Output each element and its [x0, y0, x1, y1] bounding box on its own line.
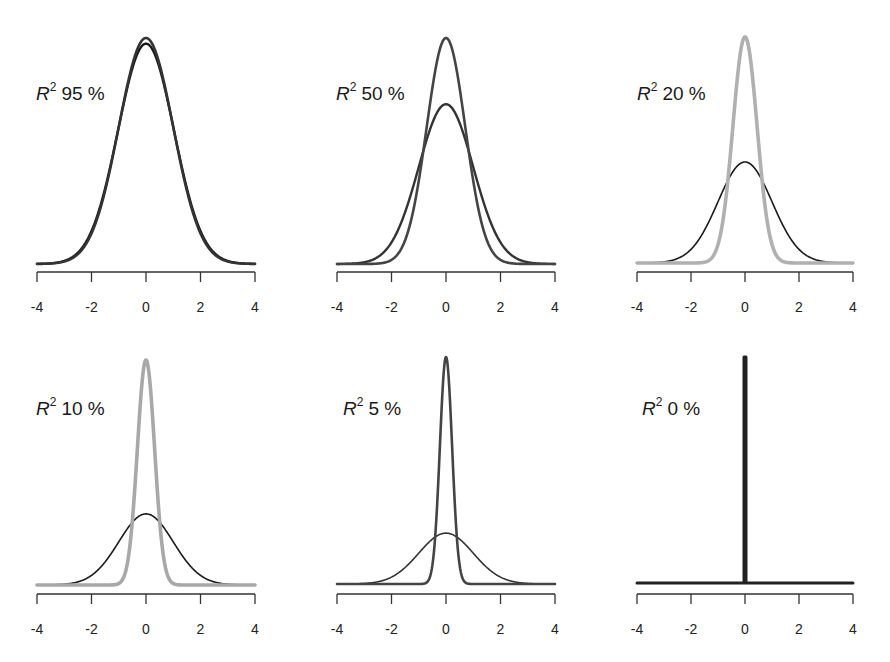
r-squared-label: R220 % — [637, 80, 706, 104]
x-tick-label: 0 — [741, 621, 749, 637]
x-tick-label: 0 — [142, 299, 150, 315]
x-tick-label: 2 — [795, 299, 803, 315]
wide-density-curve — [37, 44, 255, 264]
x-tick-label: 4 — [251, 621, 259, 637]
wide-density-curve — [337, 533, 555, 584]
r-squared-density-grid: -4-2024R295 %-4-2024R250 %-4-2024R220 %-… — [0, 0, 890, 662]
x-tick-label: 4 — [849, 621, 857, 637]
x-tick-label: 0 — [741, 299, 749, 315]
x-tick-label: 0 — [442, 299, 450, 315]
r-squared-label: R210 % — [36, 395, 105, 419]
panel-r2-5: -4-2024R25 % — [331, 357, 559, 637]
wide-density-curve — [337, 104, 555, 264]
panel-r2-50: -4-2024R250 % — [331, 38, 559, 315]
sharp-density-curve — [337, 357, 555, 584]
x-tick-label: -2 — [385, 299, 398, 315]
x-tick-label: -2 — [85, 299, 98, 315]
x-tick-label: 4 — [251, 299, 259, 315]
x-tick-label: 4 — [551, 621, 559, 637]
x-tick-label: -2 — [685, 621, 698, 637]
wide-density-curve — [637, 162, 853, 263]
wide-density-curve — [37, 514, 255, 585]
x-tick-label: -4 — [631, 299, 644, 315]
sharp-density-curve — [637, 37, 853, 263]
sharp-density-curve — [37, 38, 255, 264]
x-tick-label: 0 — [142, 621, 150, 637]
x-tick-label: 2 — [497, 621, 505, 637]
x-tick-label: -2 — [685, 299, 698, 315]
r-squared-label: R250 % — [336, 80, 405, 104]
x-tick-label: -2 — [85, 621, 98, 637]
panel-r2-0: -4-2024R20 % — [631, 357, 857, 637]
sharp-density-curve — [637, 357, 853, 583]
x-tick-label: 2 — [795, 621, 803, 637]
x-tick-label: -4 — [631, 621, 644, 637]
x-tick-label: -4 — [331, 621, 344, 637]
sharp-density-curve — [337, 38, 555, 264]
x-tick-label: -4 — [31, 299, 44, 315]
r-squared-label: R25 % — [343, 395, 401, 419]
panel-r2-20: -4-2024R220 % — [631, 37, 857, 315]
x-tick-label: -4 — [31, 621, 44, 637]
x-tick-label: 0 — [442, 621, 450, 637]
panel-r2-95: -4-2024R295 % — [31, 38, 259, 315]
sharp-density-curve — [37, 360, 255, 585]
x-tick-label: 4 — [551, 299, 559, 315]
x-tick-label: -2 — [385, 621, 398, 637]
x-tick-label: -4 — [331, 299, 344, 315]
r-squared-label: R20 % — [642, 395, 700, 419]
x-tick-label: 2 — [497, 299, 505, 315]
x-tick-label: 2 — [197, 299, 205, 315]
panel-r2-10: -4-2024R210 % — [31, 360, 259, 637]
r-squared-label: R295 % — [36, 80, 105, 104]
x-tick-label: 2 — [197, 621, 205, 637]
x-tick-label: 4 — [849, 299, 857, 315]
